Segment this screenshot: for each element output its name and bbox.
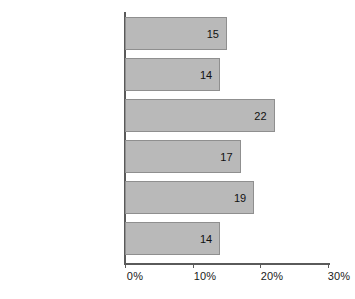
bar-value-3: 17 [220, 141, 232, 174]
table-row: Under once a month 15 [125, 17, 329, 50]
bar-value-2: 22 [254, 100, 266, 133]
table-row: Every day 14 [125, 222, 329, 255]
x-tick-label-1: 10% [194, 270, 217, 282]
x-axis-line [124, 263, 330, 265]
bar-chart: Under once a month 15 About once a month… [0, 0, 355, 299]
x-tick-mark-0 [125, 263, 126, 268]
bar-5[interactable]: 14 [125, 222, 220, 255]
bar-value-5: 14 [200, 223, 212, 256]
x-tick-label-2: 20% [261, 270, 284, 282]
x-tick-label-3: 30% [328, 270, 351, 282]
bar-2[interactable]: 22 [125, 99, 275, 132]
table-row: 2-3 times a month 22 [125, 99, 329, 132]
x-tick-label-0: 0% [127, 270, 143, 282]
table-row: Every few days 19 [125, 181, 329, 214]
plot-area: Under once a month 15 About once a month… [125, 17, 329, 263]
bar-value-0: 15 [207, 18, 219, 51]
table-row: About once a month 14 [125, 58, 329, 91]
table-row: About once a week 17 [125, 140, 329, 173]
bar-value-1: 14 [200, 59, 212, 92]
x-tick-mark-3 [328, 263, 329, 268]
bar-1[interactable]: 14 [125, 58, 220, 91]
bar-0[interactable]: 15 [125, 17, 227, 50]
bar-value-4: 19 [234, 182, 246, 215]
x-tick-mark-1 [193, 263, 194, 268]
bar-4[interactable]: 19 [125, 181, 254, 214]
x-tick-mark-2 [260, 263, 261, 268]
bar-3[interactable]: 17 [125, 140, 241, 173]
